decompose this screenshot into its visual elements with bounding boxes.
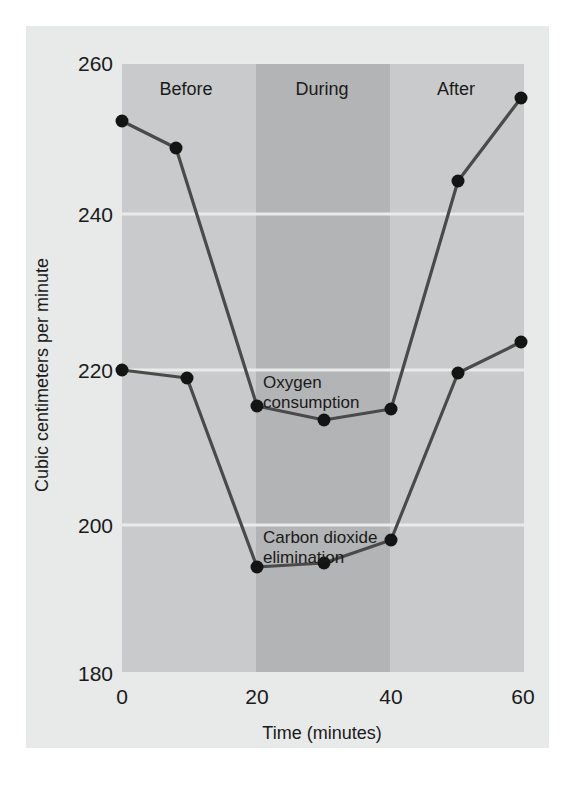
- series-label-co2-line2: elimination: [263, 548, 344, 567]
- phase-bands: [122, 63, 524, 672]
- series-label-co2-line1: Carbon dioxide: [263, 528, 377, 547]
- data-point: [385, 534, 398, 547]
- data-point: [181, 372, 194, 385]
- data-point: [515, 336, 528, 349]
- data-point: [452, 367, 465, 380]
- y-tick-label-240: 240: [78, 203, 113, 226]
- data-point: [452, 175, 465, 188]
- y-tick-label-220: 220: [78, 359, 113, 382]
- data-point: [251, 561, 264, 574]
- x-tick-label-60: 60: [511, 685, 534, 708]
- phase-label-during: During: [295, 79, 348, 99]
- x-tick-label-20: 20: [245, 685, 268, 708]
- y-axis-title: Cubic centimeters per minute: [32, 258, 52, 492]
- data-point: [116, 364, 129, 377]
- data-point: [116, 115, 129, 128]
- x-axis-title: Time (minutes): [262, 723, 381, 743]
- series-label-oxygen-line2: consumption: [263, 393, 359, 412]
- y-axis-tick-labels: 260 240 220 200 180: [78, 52, 113, 685]
- x-tick-label-0: 0: [116, 685, 128, 708]
- phase-label-after: After: [437, 79, 475, 99]
- data-point: [251, 400, 264, 413]
- data-point: [318, 414, 331, 427]
- data-point: [515, 92, 528, 105]
- phase-label-before: Before: [159, 79, 212, 99]
- y-tick-label-180: 180: [78, 662, 113, 685]
- oxygen-co2-line-chart: 260 240 220 200 180 0 20 40 60 Time (min…: [0, 0, 575, 791]
- data-point: [170, 142, 183, 155]
- x-axis-tick-labels: 0 20 40 60: [116, 685, 535, 708]
- phase-band-during: [256, 63, 390, 672]
- data-point: [385, 403, 398, 416]
- y-tick-label-260: 260: [78, 52, 113, 75]
- series-label-oxygen-line1: Oxygen: [263, 373, 322, 392]
- x-tick-label-40: 40: [379, 685, 402, 708]
- figure-container: 260 240 220 200 180 0 20 40 60 Time (min…: [0, 0, 575, 791]
- y-tick-label-200: 200: [78, 514, 113, 537]
- phase-band-before: [122, 63, 256, 672]
